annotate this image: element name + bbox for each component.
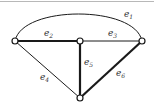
edge-e4 <box>15 41 80 98</box>
graph-diagram: e1 e2 e3 e4 e5 e6 <box>0 0 154 110</box>
label-e5: e5 <box>84 57 93 68</box>
node-right <box>139 38 145 44</box>
node-left <box>12 38 18 44</box>
edge-e1 <box>15 14 142 41</box>
label-e6: e6 <box>116 68 125 79</box>
label-e4: e4 <box>40 72 49 83</box>
label-e2: e2 <box>44 28 53 39</box>
node-bottom <box>77 95 83 101</box>
node-center <box>77 38 83 44</box>
edge-e6 <box>80 41 142 98</box>
label-e1: e1 <box>124 9 133 20</box>
label-e3: e3 <box>108 28 117 39</box>
